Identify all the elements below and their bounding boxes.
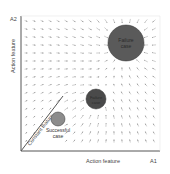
- field-arrow: [64, 108, 67, 111]
- field-arrow: [137, 92, 139, 95]
- field-arrow: [152, 60, 156, 61]
- field-arrow: [153, 140, 154, 143]
- field-arrow: [104, 36, 108, 38]
- field-arrow: [122, 76, 123, 79]
- field-arrow: [33, 108, 35, 110]
- field-arrow: [81, 20, 84, 22]
- field-arrow: [105, 60, 108, 61]
- field-arrow: [72, 85, 76, 86]
- field-arrow: [129, 115, 130, 118]
- field-arrow: [25, 37, 28, 38]
- field-arrow: [130, 19, 131, 23]
- field-arrow: [25, 108, 27, 109]
- field-arrow: [137, 124, 138, 127]
- field-arrow: [104, 45, 108, 46]
- field-arrow: [33, 29, 36, 30]
- field-arrow: [64, 124, 67, 126]
- field-arrow: [113, 60, 115, 63]
- field-arrow: [98, 115, 99, 119]
- field-arrow: [145, 116, 147, 119]
- field-arrow: [25, 124, 27, 126]
- field-arrow: [153, 84, 156, 86]
- field-arrow: [96, 28, 99, 30]
- field-arrow: [33, 100, 36, 102]
- y-axis-tick-label: A2: [10, 16, 17, 22]
- field-arrow: [145, 108, 147, 111]
- field-arrow: [145, 100, 147, 103]
- field-arrow: [65, 20, 68, 22]
- field-arrow: [72, 45, 75, 46]
- field-arrow: [41, 29, 44, 30]
- field-arrow: [41, 92, 44, 93]
- field-arrow: [81, 115, 84, 118]
- field-arrow: [98, 123, 99, 127]
- field-arrow: [89, 139, 90, 142]
- field-arrow: [56, 45, 59, 46]
- field-arrow: [41, 20, 44, 21]
- field-arrow: [145, 140, 146, 143]
- field-arrow: [145, 84, 147, 86]
- field-arrow: [57, 20, 60, 21]
- field-arrow: [121, 100, 123, 103]
- field-arrow: [25, 29, 28, 30]
- field-arrow: [48, 45, 51, 46]
- field-arrow: [106, 107, 107, 111]
- field-arrow: [41, 37, 44, 38]
- field-arrow: [137, 116, 138, 119]
- field-arrow: [129, 76, 131, 79]
- field-arrow: [114, 84, 115, 86]
- field-arrow: [80, 45, 83, 46]
- field-arrow: [33, 77, 36, 78]
- field-arrow: [153, 116, 155, 119]
- field-arrow: [129, 67, 130, 70]
- field-arrow: [25, 116, 27, 118]
- field-arrow: [33, 124, 35, 126]
- field-arrow: [137, 108, 139, 111]
- field-arrow: [145, 68, 148, 70]
- field-arrow: [145, 124, 146, 127]
- field-arrow: [122, 19, 123, 23]
- field-arrow: [80, 100, 84, 102]
- field-arrow: [145, 19, 148, 22]
- field-arrow: [137, 68, 139, 71]
- field-arrow: [33, 92, 36, 93]
- field-arrow: [153, 20, 156, 23]
- field-arrow: [129, 108, 131, 111]
- field-arrow: [97, 85, 99, 86]
- field-arrow: [49, 28, 52, 29]
- field-arrow: [73, 20, 76, 22]
- field-arrow: [72, 28, 75, 30]
- diagram-canvas: Constant feature A2 Action feature Actio…: [0, 0, 170, 174]
- field-arrow: [73, 124, 76, 127]
- field-arrow: [137, 132, 138, 135]
- field-arrow: [137, 100, 139, 103]
- field-arrow: [89, 131, 90, 134]
- field-arrow: [145, 132, 146, 135]
- field-arrow: [80, 93, 84, 94]
- field-arrow: [40, 77, 43, 78]
- field-arrow: [122, 131, 123, 134]
- field-arrow: [104, 28, 107, 31]
- field-arrow: [153, 108, 155, 111]
- field-arrow: [80, 36, 83, 37]
- field-arrow: [113, 68, 114, 71]
- field-arrow: [48, 37, 51, 38]
- field-arrow: [153, 132, 154, 135]
- field-arrow: [33, 116, 35, 118]
- field-arrow: [33, 37, 36, 38]
- field-arrow: [56, 37, 59, 38]
- field-arrow: [64, 45, 67, 46]
- field-arrow: [153, 76, 156, 78]
- field-arrow: [64, 100, 67, 102]
- field-arrow: [129, 84, 131, 87]
- field-arrow: [144, 36, 148, 38]
- field-arrow: [96, 36, 100, 38]
- field-arrow: [64, 77, 67, 78]
- field-arrow: [25, 100, 28, 101]
- field-arrow: [64, 92, 67, 94]
- field-arrow: [49, 20, 52, 21]
- field-arrow: [121, 115, 122, 118]
- field-arrow: [80, 108, 83, 111]
- field-arrow: [113, 107, 114, 110]
- field-arrow: [25, 21, 28, 22]
